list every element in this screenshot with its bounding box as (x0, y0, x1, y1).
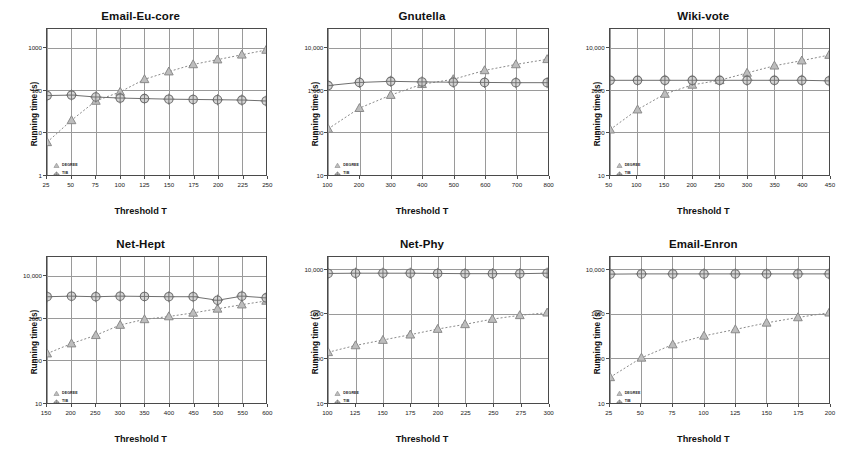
marker-degree (406, 330, 415, 338)
gridline-vertical (829, 257, 830, 403)
x-tick-label: 50 (605, 181, 612, 188)
x-tick-label: 100 (322, 181, 332, 188)
x-tick-label: 225 (238, 181, 248, 188)
x-tick-label: 250 (488, 409, 498, 416)
x-tick (485, 176, 486, 179)
x-tick (410, 404, 411, 407)
marker-degree (189, 60, 198, 68)
x-tick-label: 150 (659, 181, 669, 188)
x-tick-label: 150 (377, 409, 387, 416)
marker-degree (516, 311, 525, 319)
x-tick (243, 176, 244, 179)
y-tick-label: 10 (598, 172, 605, 179)
chart-title: Email-Enron (563, 238, 844, 250)
y-tick (324, 313, 327, 314)
plot-area: DEGREETIB (609, 256, 830, 404)
gridline-vertical (829, 29, 830, 175)
y-tick-label: 10,000 (586, 44, 605, 51)
y-tick-label: 10,000 (23, 272, 42, 279)
legend-label: DEGREE (62, 392, 78, 396)
marker-layer (47, 29, 266, 175)
marker-degree (699, 331, 708, 339)
marker-degree (327, 124, 333, 132)
x-tick (466, 404, 467, 407)
x-tick (144, 176, 145, 179)
chart-legend: DEGREETIB (334, 162, 359, 176)
x-tick-label: 200 (213, 181, 223, 188)
x-tick (120, 404, 121, 407)
x-tick (672, 404, 673, 407)
x-tick (767, 404, 768, 407)
x-tick-label: 300 (543, 409, 553, 416)
x-tick (391, 176, 392, 179)
legend-item-degree: DEGREE (53, 390, 78, 397)
y-tick (43, 318, 46, 319)
marker-layer (328, 29, 547, 175)
x-tick-label: 300 (742, 181, 752, 188)
x-tick (719, 176, 720, 179)
x-tick (549, 404, 550, 407)
x-tick (359, 176, 360, 179)
x-tick (830, 404, 831, 407)
x-tick (120, 176, 121, 179)
chart-title: Net-Phy (281, 238, 562, 250)
plot-area: DEGREETIB (327, 256, 548, 404)
x-tick (46, 176, 47, 179)
legend-triangle-icon (334, 390, 341, 397)
chart-panel-gnutella: GnutellaRunning time (s)Threshold TDEGRE… (281, 0, 562, 228)
y-tick-label: 100 (313, 129, 323, 136)
x-tick-label: 600 (480, 181, 490, 188)
x-tick-label: 250 (90, 409, 100, 416)
marker-degree (543, 308, 549, 316)
gridline-vertical (548, 257, 549, 403)
marker-degree (660, 89, 669, 97)
marker-degree (387, 90, 396, 98)
gridline-vertical (548, 29, 549, 175)
legend-item-degree: DEGREE (616, 162, 641, 169)
x-tick-label: 50 (637, 409, 644, 416)
y-tick-label: 1,000 (308, 87, 323, 94)
x-axis-title: Threshold T (0, 206, 281, 216)
x-axis-labels: 255075100125150175200 (609, 404, 830, 424)
x-tick (692, 176, 693, 179)
x-tick-label: 50 (67, 181, 74, 188)
x-tick (383, 404, 384, 407)
plot-wrapper: DEGREETIB10100100010,0001502002503003504… (46, 256, 267, 404)
marker-degree (140, 315, 149, 323)
x-tick (549, 176, 550, 179)
y-tick-label: 10 (35, 400, 42, 407)
y-tick (606, 313, 609, 314)
marker-degree (355, 104, 364, 112)
legend-triangle-icon (53, 390, 60, 397)
chart-legend: DEGREETIB (616, 390, 641, 404)
x-tick-label: 125 (730, 409, 740, 416)
marker-degree (609, 373, 615, 381)
legend-triangle-icon (53, 162, 60, 169)
x-tick-label: 75 (92, 181, 99, 188)
chart-panel-email-enron: Email-EnronRunning time (s)Threshold TDE… (563, 228, 844, 456)
x-tick-label: 175 (188, 181, 198, 188)
plot-wrapper: DEGREETIB101001,00010,000100200300400500… (327, 28, 548, 176)
marker-degree (67, 116, 76, 124)
plot-wrapper: DEGREETIB10100100010,0005010015020025030… (609, 28, 830, 176)
x-tick-label: 450 (188, 409, 198, 416)
y-tick-label: 10 (35, 129, 42, 136)
x-tick-label: 450 (825, 181, 835, 188)
y-tick (606, 47, 609, 48)
x-tick-label: 150 (762, 409, 772, 416)
legend-triangle-icon (616, 162, 623, 169)
y-axis-labels: 10100100010,000 (287, 256, 327, 404)
chart-panel-net-hept: Net-HeptRunning time (s)Threshold TDEGRE… (0, 228, 281, 456)
legend-label: DEGREE (625, 392, 641, 396)
x-tick (169, 176, 170, 179)
y-tick-label: 100 (313, 355, 323, 362)
y-tick-label: 100 (32, 357, 42, 364)
y-tick-label: 10 (598, 400, 605, 407)
x-tick (327, 404, 328, 407)
gridline-vertical (266, 29, 267, 175)
marker-degree (824, 308, 830, 316)
chart-panel-net-phy: Net-PhyRunning time (s)Threshold TDEGREE… (281, 228, 562, 456)
legend-label: DEGREE (62, 164, 78, 168)
x-tick-label: 350 (769, 181, 779, 188)
x-tick (636, 176, 637, 179)
